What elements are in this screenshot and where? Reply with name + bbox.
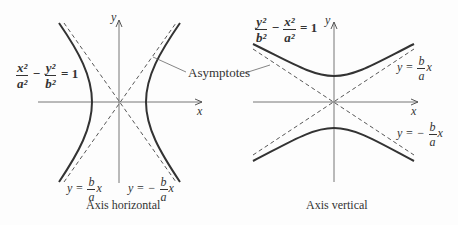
eq-den: a² [16, 76, 28, 90]
asym-var: x [96, 181, 101, 195]
right-asymptote-neg-label: y = − bax [397, 121, 443, 148]
asym-lhs: y = [397, 60, 413, 74]
left-equation: x²a² − y²b² = 1 [15, 61, 78, 90]
asym-den: a [429, 135, 437, 148]
asym-var: x [169, 181, 174, 195]
asym-var: x [426, 60, 431, 74]
asym-den: a [160, 190, 168, 203]
asym-num: b [429, 121, 437, 135]
eq-rhs: = 1 [61, 66, 78, 81]
eq-num: y² [45, 61, 57, 76]
eq-rhs: = 1 [300, 20, 317, 35]
eq-op: − [272, 20, 279, 35]
left-hyperbola-right-branch [146, 23, 180, 182]
right-graph [245, 22, 418, 182]
asym-den: a [417, 69, 425, 82]
asym-lhs: y = [67, 181, 83, 195]
asym-num: b [87, 176, 95, 190]
right-equation: y²b² − x²a² = 1 [254, 15, 317, 44]
right-y-label: y [325, 13, 330, 28]
eq-den: a² [283, 30, 295, 44]
right-asymptote-pos-label: y = bax [397, 55, 432, 82]
asym-var: x [438, 126, 443, 140]
right-hyperbola-upper-branch [253, 44, 414, 76]
asym-lhs: y = − [397, 126, 425, 140]
left-graph [38, 20, 202, 183]
left-caption: Axis horizontal [86, 198, 160, 213]
left-x-label: x [197, 104, 202, 119]
asym-lhs: y = − [128, 181, 156, 195]
eq-num: x² [16, 61, 28, 76]
eq-num: y² [255, 15, 267, 30]
right-caption: Axis vertical [306, 198, 368, 213]
left-y-label: y [111, 10, 116, 25]
left-hyperbola-left-branch [59, 23, 92, 182]
eq-op: − [33, 66, 40, 81]
eq-den: b² [255, 30, 267, 44]
eq-den: b² [44, 76, 56, 90]
asymptotes-label: Asymptotes [188, 65, 250, 81]
asym-num: b [160, 176, 168, 190]
eq-num: x² [283, 15, 295, 30]
right-x-label: x [411, 104, 416, 119]
asym-num: b [417, 55, 425, 69]
left-leader-line [153, 57, 186, 72]
right-hyperbola-lower-branch [253, 128, 414, 161]
